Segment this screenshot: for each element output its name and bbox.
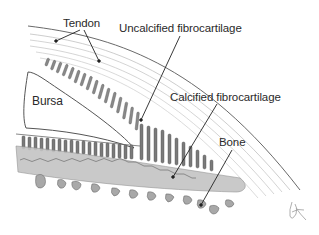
label-bone: Bone (219, 136, 245, 148)
label-calcified-fibrocartilage: Calcified fibrocartilage (170, 91, 281, 103)
label-bursa: Bursa (32, 94, 63, 108)
label-uncalcified-fibrocartilage: Uncalcified fibrocartilage (119, 22, 242, 34)
diagram-illustration (0, 0, 319, 235)
label-tendon: Tendon (63, 17, 100, 29)
enthesis-diagram: Tendon Uncalcified fibrocartilage Bursa … (0, 0, 319, 235)
artist-signature (290, 202, 306, 220)
